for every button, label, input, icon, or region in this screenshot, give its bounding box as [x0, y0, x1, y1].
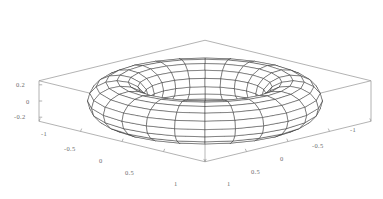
- mesh-quad: [175, 120, 205, 129]
- left-front-axis-tick-label: 1: [174, 181, 178, 188]
- mesh-quad: [175, 112, 205, 121]
- mesh-quad: [175, 129, 205, 137]
- mesh-quad: [205, 129, 235, 137]
- mesh-quad: [205, 112, 235, 121]
- mesh-quad: [205, 87, 221, 95]
- mesh-quad: [205, 94, 222, 100]
- mesh-quad: [205, 106, 233, 114]
- right-front-axis-tick-label: 0: [280, 156, 284, 163]
- left-front-axis-tick-label: 0.5: [125, 170, 134, 177]
- mesh-quad: [205, 78, 221, 87]
- mesh-quad: [205, 64, 225, 71]
- vertical-axis-tick-label: 0: [26, 99, 30, 106]
- mesh-quad: [185, 64, 205, 71]
- right-front-axis-tick-label: -0.5: [312, 143, 324, 150]
- x-axis-tick-mark: [81, 129, 82, 132]
- mesh-quad: [205, 70, 222, 79]
- left-front-axis-tick-label: 0: [99, 158, 103, 165]
- mesh-quad: [175, 79, 190, 89]
- vertical-axis-tick-label: 0.2: [16, 82, 25, 89]
- right-front-axis-tick-label: 0.5: [251, 169, 260, 176]
- x-axis-tick-mark: [122, 139, 123, 142]
- y-axis-tick-mark: [328, 129, 329, 132]
- y-axis-tick-mark: [287, 139, 288, 142]
- right-front-axis-tick-label: 1: [227, 181, 231, 188]
- mesh-quad: [189, 78, 205, 87]
- mesh-quad: [177, 106, 205, 114]
- torus-mesh: [88, 58, 323, 144]
- left-front-axis-tick-label: -0.5: [64, 146, 76, 153]
- right-front-axis-tick-label: -1: [350, 127, 356, 134]
- mesh-quad: [188, 94, 205, 100]
- mesh-quad: [220, 79, 235, 89]
- mesh-quad: [205, 120, 235, 129]
- torus-surface-plot: [0, 0, 383, 199]
- vertical-axis-tick-label: -0.2: [14, 114, 26, 121]
- plot-figure: 0.20-0.2-1-0.500.51-1-0.500.51: [0, 0, 383, 199]
- x-axis-tick-mark: [164, 149, 165, 152]
- left-front-axis-tick-label: -1: [41, 131, 47, 138]
- y-axis-tick-mark: [245, 149, 246, 152]
- mesh-quad: [189, 87, 205, 95]
- mesh-quad: [188, 70, 205, 79]
